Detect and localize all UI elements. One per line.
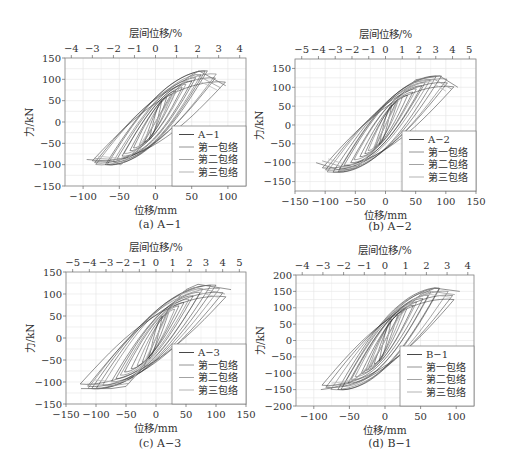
y-tick-label: −50: [40, 138, 61, 149]
x-tick-label: −50: [339, 411, 360, 422]
top-axis-title: 层间位移/%: [129, 27, 183, 39]
y-tick-label: −150: [35, 399, 62, 410]
x2-tick-label: 5: [466, 44, 472, 55]
legend-label: A−3: [197, 347, 220, 358]
x-tick-label: −100: [300, 411, 327, 422]
y-axis-title: 力/kN: [253, 110, 265, 139]
x2-tick-label: 1: [173, 43, 179, 54]
x2-tick-label: 2: [186, 257, 192, 268]
x-tick-label: −50: [115, 409, 136, 420]
bottom-axis-title: 位移/mm: [363, 424, 406, 436]
y-tick-label: 150: [272, 63, 291, 74]
x2-tick-label: 3: [203, 257, 209, 268]
y-tick-label: −150: [265, 384, 292, 395]
x2-tick-label: 4: [465, 260, 471, 271]
y-tick-label: −50: [41, 355, 62, 366]
legend-label: 第二包络: [198, 371, 238, 383]
y-tick-label: 0: [286, 335, 292, 346]
x2-tick-label: 3: [433, 44, 439, 55]
y-tick-label: 150: [42, 53, 61, 64]
x2-tick-label: −3: [99, 257, 114, 268]
legend: B−1第一包络第二包络第三包络: [400, 346, 474, 406]
caption-c: (c) A−3: [105, 437, 215, 450]
bottom-axis-title: 位移/mm: [134, 204, 177, 216]
x2-tick-label: −4: [295, 260, 310, 271]
legend: A−3第一包络第二包络第三包络: [172, 344, 246, 404]
y-tick-label: 150: [273, 286, 292, 297]
x-tick-label: 100: [436, 196, 455, 207]
y-tick-label: 200: [273, 270, 292, 281]
x2-tick-label: 1: [399, 44, 405, 55]
legend-label: A−1: [197, 129, 220, 140]
x2-tick-label: 1: [169, 257, 175, 268]
x-tick-label: 100: [206, 409, 225, 420]
legend-label: 第一包络: [428, 146, 468, 158]
x2-tick-label: −4: [64, 43, 79, 54]
x2-tick-label: 0: [153, 257, 159, 268]
y-tick-label: 50: [48, 95, 61, 106]
y-tick-label: 100: [273, 302, 292, 313]
legend-label: 第二包络: [426, 373, 466, 385]
y-tick-label: −100: [34, 159, 61, 170]
x2-tick-label: −1: [357, 260, 372, 271]
x2-tick-label: −5: [294, 44, 309, 55]
y-tick-label: −50: [270, 138, 291, 149]
y-tick-label: 0: [56, 333, 62, 344]
x-tick-label: −50: [345, 196, 366, 207]
legend-label: 第三包络: [426, 386, 466, 398]
y-tick-label: −100: [265, 368, 292, 379]
x2-tick-label: 0: [382, 44, 388, 55]
x2-tick-label: −5: [65, 257, 80, 268]
y-tick-label: 50: [278, 101, 291, 112]
legend-label: 第二包络: [198, 153, 238, 165]
y-tick-label: −200: [265, 401, 292, 412]
y-tick-label: −100: [264, 157, 291, 168]
top-axis-title: 层间位移/%: [358, 244, 412, 256]
x2-tick-label: −2: [115, 257, 130, 268]
x2-tick-label: −1: [132, 257, 147, 268]
x-tick-label: −100: [82, 409, 109, 420]
x-tick-label: 50: [185, 191, 198, 202]
x2-tick-label: 4: [449, 44, 455, 55]
hysteresis-cycle: [149, 316, 162, 359]
top-axis-title: 层间位移/%: [129, 241, 183, 253]
bottom-axis-title: 位移/mm: [134, 422, 177, 434]
x-tick-label: 100: [218, 191, 237, 202]
x2-tick-label: −1: [127, 43, 142, 54]
legend-label: 第三包络: [198, 166, 238, 178]
y-axis-title: 力/kN: [24, 323, 36, 352]
x-tick-label: 0: [153, 409, 159, 420]
x2-tick-label: −4: [311, 44, 326, 55]
x-tick-label: −100: [311, 196, 338, 207]
top-axis-title: 层间位移/%: [359, 28, 413, 40]
y-axis-title: 力/kN: [254, 326, 266, 355]
x-tick-label: 150: [236, 409, 255, 420]
x2-tick-label: −3: [85, 43, 100, 54]
x-tick-label: 50: [414, 411, 427, 422]
legend-label: 第三包络: [428, 171, 468, 183]
x2-tick-label: −2: [345, 44, 360, 55]
y-tick-label: −150: [34, 181, 61, 192]
x-tick-label: −150: [281, 196, 308, 207]
panel-b: −150−100−50050100150−5−4−3−2−1012345−150…: [253, 28, 486, 221]
x2-tick-label: 0: [382, 260, 388, 271]
x-tick-label: 50: [409, 196, 422, 207]
x-tick-label: 50: [180, 409, 193, 420]
x2-tick-label: −2: [336, 260, 351, 271]
x2-tick-label: 3: [444, 260, 450, 271]
x-tick-label: −100: [69, 191, 96, 202]
x2-tick-label: 1: [403, 260, 409, 271]
chart-canvas: −100−50050100−4−3−2−101234−150−100−50050…: [0, 0, 509, 472]
x-tick-label: 100: [447, 411, 466, 422]
x2-tick-label: −3: [328, 44, 343, 55]
x2-tick-label: 5: [236, 257, 242, 268]
y-tick-label: 100: [42, 74, 61, 85]
x2-tick-label: 2: [423, 260, 429, 271]
panel-a: −100−50050100−4−3−2−101234−150−100−50050…: [23, 27, 246, 216]
caption-d: (d) B−1: [335, 437, 445, 450]
legend: A−2第一包络第二包络第三包络: [402, 131, 476, 191]
x2-tick-label: −2: [106, 43, 121, 54]
y-tick-label: −50: [271, 351, 292, 362]
x2-tick-label: 2: [416, 44, 422, 55]
legend-label: A−2: [427, 134, 450, 145]
